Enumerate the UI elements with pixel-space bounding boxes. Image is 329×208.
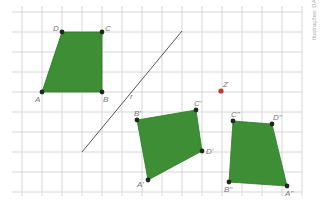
vertex-point <box>40 90 45 95</box>
center-label-z: Z <box>222 80 229 89</box>
vertex-label: D' <box>206 147 214 156</box>
vertex-label: A' <box>136 180 144 189</box>
polygon-ABCD <box>42 32 102 92</box>
geometry-figure: rABCDA'B'C'D'A''B''C''D''Z <box>0 0 329 208</box>
vertex-label: C' <box>194 99 202 108</box>
vertex-label: B' <box>134 109 141 118</box>
vertex-point <box>146 178 151 183</box>
vertex-point <box>270 122 275 127</box>
polygon-A''B''C''D'' <box>229 121 287 186</box>
vertex-point <box>100 30 105 35</box>
rotation-center-z <box>218 88 223 93</box>
vertex-label: D'' <box>273 113 282 122</box>
vertex-point <box>135 118 140 123</box>
vertex-point <box>194 108 199 113</box>
vertex-label: A'' <box>284 189 294 198</box>
vertex-point <box>100 90 105 95</box>
vertex-point <box>231 119 236 124</box>
vertex-label: C'' <box>231 110 240 119</box>
vertex-point <box>227 180 232 185</box>
line-label-r: r <box>130 92 133 101</box>
vertex-label: D <box>53 24 59 33</box>
vertex-label: C <box>105 24 111 33</box>
vertex-point <box>60 30 65 35</box>
vertex-point <box>200 149 205 154</box>
vertex-label: B'' <box>224 185 233 194</box>
vertex-label: A <box>34 95 40 104</box>
image-credit: Ilustrações: DAE <box>311 0 317 40</box>
vertex-point <box>285 184 290 189</box>
vertex-label: B <box>103 95 109 104</box>
polygon-A'B'C'D' <box>137 110 202 180</box>
